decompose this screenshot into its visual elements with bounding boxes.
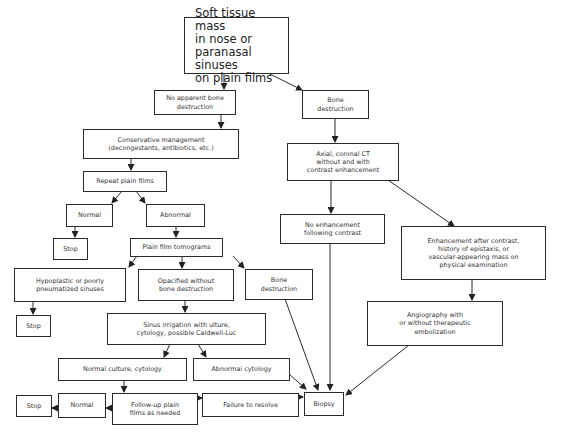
node-stop-1: Stop [53,238,88,260]
node-enhancement: Enhancement after contrast, history of e… [401,226,546,280]
node-follow-up: Follow-up plain films as needed [112,393,198,425]
node-hypoplastic: Hypoplastic or poorly pneumatized sinuse… [14,268,126,302]
node-failure-to-resolve: Failure to resolve [202,393,299,417]
node-biopsy: Biopsy [304,392,344,416]
flowchart-canvas: Soft tissue mass in nose or paranasal si… [0,0,561,438]
node-normal-1: Normal [66,204,113,227]
node-bone-destruction-right: Bone destruction [302,90,369,119]
node-normal-2: Normal [58,393,106,418]
node-tomograms: Plain film tomograms [130,238,223,257]
node-angiography: Angiography with or without therapeutic … [367,301,503,346]
node-no-enhancement: No enhancement following contrast [280,214,385,244]
node-ct: Axial, coronal CT without and with contr… [287,143,399,181]
node-normal-culture: Normal culture, cytology [58,358,187,381]
node-no-bone-destruction: No apparent bone destruction [154,90,236,115]
node-bone-destruction-mid: Bone destruction [245,269,313,300]
node-repeat-plain-films: Repeat plain films [83,171,167,192]
node-stop-2: Stop [16,315,51,337]
node-stop-3: Stop [16,395,52,417]
node-opacified: Opacified without bone destruction [138,269,234,301]
node-abnormal: Abnormal [146,204,205,227]
node-abnormal-cytology: Abnormai cytology [193,358,290,381]
node-start: Soft tissue mass in nose or paranasal si… [184,17,289,74]
node-conservative-management: Conservative management (decongestants, … [83,129,239,159]
node-sinus-irrigation: Sinus irrigation with ulture, cytology, … [107,313,266,345]
